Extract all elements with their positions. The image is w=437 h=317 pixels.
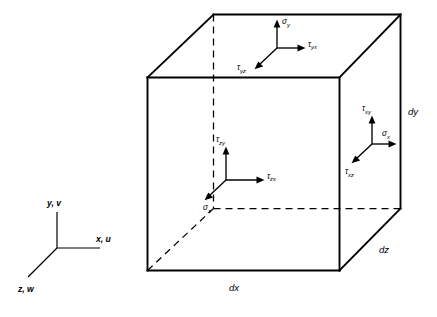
y-axis-label: y, v [46, 198, 62, 208]
tau-xz-label: τxz [345, 167, 354, 178]
z-axis-label: z, w [17, 284, 35, 294]
x-axis-label: x, u [95, 234, 112, 244]
sigma-y-arrow-head [274, 20, 281, 28]
cube-edge-bottom-right-receding [340, 209, 401, 271]
dimension-label-dx: dx [229, 282, 240, 293]
right-face-stress-triad: τxy σx τxz [345, 104, 397, 178]
tau-yz-arrow-shaft [259, 48, 277, 65]
sigma-y-label: σy [282, 17, 291, 28]
cube-edges-visible [148, 15, 401, 271]
cube-edge-top-right-receding [340, 15, 401, 78]
tau-yx-label: τyx [308, 40, 318, 51]
cube-edge-top-left-receding [148, 15, 214, 78]
tau-zx-arrow-head [257, 177, 265, 184]
dimension-labels: dx dy dz [229, 106, 419, 293]
top-face-stress-triad: σy τyx τyz [237, 17, 318, 74]
stress-element-diagram: σy τyx τyz τzy τzx σz [0, 0, 437, 317]
coordinate-axes-triad: y, v x, u z, w [17, 198, 112, 294]
sigma-x-arrow-head [389, 141, 397, 148]
sigma-x-label: σx [382, 129, 391, 140]
tau-xy-arrow-head [369, 116, 376, 124]
sigma-z-label: σz [203, 203, 211, 214]
tau-zy-arrow-head [223, 147, 230, 155]
tau-xz-arrow-shaft [356, 144, 372, 159]
tau-yx-arrow-head [298, 45, 306, 52]
sigma-z-arrow-shaft [209, 180, 226, 196]
stress-element-figure: σy τyx τyz τzy τzx σz [0, 0, 437, 317]
tau-xy-label: τxy [362, 104, 372, 115]
cube-edge-hidden-bottom-left-receding [148, 209, 214, 271]
tau-zx-label: τzx [267, 172, 277, 183]
dimension-label-dz: dz [379, 244, 389, 255]
dimension-label-dy: dy [408, 106, 419, 117]
z-axis-line [28, 248, 57, 277]
tau-zy-label: τzy [216, 135, 226, 146]
tau-yz-label: τyz [237, 63, 246, 74]
